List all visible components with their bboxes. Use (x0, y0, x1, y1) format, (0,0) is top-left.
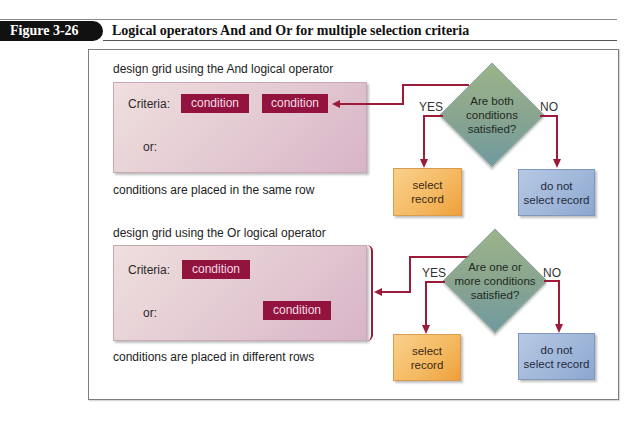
and-do-not-select-box: do not select record (518, 169, 595, 216)
and-noselect-line-1: do not (524, 179, 590, 193)
or-no-vertical (558, 280, 560, 325)
and-decision-line-1: Are both (466, 94, 518, 108)
or-decision-line-2: more conditions (454, 274, 535, 288)
and-decision-diamond: Are both conditions satisfied? (440, 63, 544, 167)
and-connector-horizontal (340, 103, 404, 105)
or-arrow-left-icon (374, 288, 382, 296)
or-yes-horizontal (425, 281, 445, 283)
and-decision-line-3: satisfied? (466, 122, 518, 136)
figure-title: Logical operators And and Or for multipl… (112, 21, 469, 41)
or-yes-arrow-down-icon (422, 325, 430, 334)
or-criteria-label: Criteria: (128, 263, 170, 277)
and-decision-text: Are both conditions satisfied? (440, 63, 544, 167)
and-condition-1: condition (181, 94, 249, 113)
or-decision-text: Are one or more conditions satisfied? (443, 229, 547, 333)
or-select-line-2: record (411, 358, 444, 372)
and-yes-label: YES (419, 100, 443, 114)
or-grid-brace (367, 245, 373, 341)
and-caption-bottom: conditions are placed in the same row (113, 183, 314, 197)
or-do-not-select-box: do not select record (518, 333, 595, 380)
and-caption-top: design grid using the And logical operat… (113, 62, 333, 76)
or-noselect-line-1: do not (524, 343, 590, 357)
and-no-arrow-down-icon (553, 159, 561, 168)
or-caption-top: design grid using the Or logical operato… (113, 226, 326, 240)
or-yes-label: YES (422, 266, 446, 280)
and-criteria-label: Criteria: (128, 97, 170, 111)
header-top-rule (0, 19, 617, 20)
or-condition-1: condition (182, 260, 250, 279)
and-no-label: NO (540, 100, 558, 114)
or-select-line-1: select (411, 344, 444, 358)
or-connector-horizontal (382, 291, 411, 293)
and-no-vertical (556, 115, 558, 160)
and-or-label: or: (143, 140, 157, 154)
or-caption-bottom: conditions are placed in different rows (113, 350, 314, 364)
and-noselect-line-2: select record (524, 193, 590, 207)
or-no-arrow-down-icon (555, 324, 563, 333)
and-connector-riser (402, 84, 404, 105)
and-select-record-box: select record (393, 168, 462, 216)
and-condition-2: condition (262, 94, 328, 113)
and-arrow-left-icon (332, 100, 340, 108)
and-select-line-1: select (411, 178, 444, 192)
or-condition-2: condition (263, 301, 331, 320)
or-yes-vertical (425, 281, 427, 326)
and-yes-horizontal (423, 115, 443, 117)
or-connector-riser (409, 256, 411, 293)
or-decision-line-3: satisfied? (454, 288, 535, 302)
and-yes-vertical (423, 115, 425, 160)
figure-label: Figure 3-26 (0, 21, 103, 41)
or-no-label: NO (543, 266, 561, 280)
or-select-record-box: select record (393, 334, 461, 381)
and-decision-line-2: conditions (466, 108, 518, 122)
or-or-label: or: (143, 306, 157, 320)
or-decision-diamond: Are one or more conditions satisfied? (443, 229, 547, 333)
or-decision-line-1: Are one or (454, 260, 535, 274)
and-select-line-2: record (411, 192, 444, 206)
and-yes-arrow-down-icon (420, 159, 428, 168)
or-noselect-line-2: select record (524, 357, 590, 371)
